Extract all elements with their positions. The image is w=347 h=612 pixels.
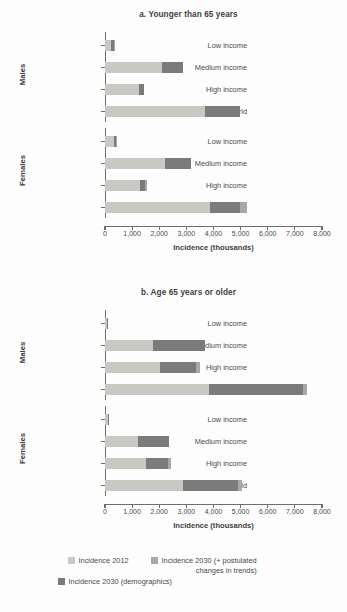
bar-segment [146,458,168,469]
x-axis-label: Incidence (thousands) [105,521,322,530]
x-tick-label: 1,000 [123,508,141,515]
category-label: Medium income [195,160,247,167]
bar-segment [105,62,162,73]
category-label: Low income [208,320,247,327]
bar-segment [238,480,242,491]
legend-label-line2: changes in trends) [162,566,257,576]
legend-swatch-incidence-2030-demographics [58,578,65,585]
x-tick-label: 4,000 [205,508,223,515]
x-tick-label: 4,000 [205,230,223,237]
category-label: Medium income [195,64,247,71]
category-label: High income [206,460,247,467]
panel-a-plot: MalesLow incomeMedium incomeHigh incomeW… [0,26,347,256]
x-tick-label: 5,000 [232,230,250,237]
bar-segment [138,436,169,447]
x-tick-label: 8,000 [313,508,331,515]
bar-segment [105,340,153,351]
legend-swatch-incidence-2030-trends [151,557,158,564]
x-tick-label: 0 [103,230,107,237]
x-tick-label: 1,000 [123,230,141,237]
x-tick-label: 0 [103,508,107,515]
x-tick-label: 6,000 [259,230,277,237]
bar-segment [205,106,240,117]
x-tick-label: 7,000 [286,508,304,515]
x-tick-label: 3,000 [178,230,196,237]
category-label: High income [206,86,247,93]
x-tick-label: 6,000 [259,508,277,515]
legend-row: Incidence 2030 (+ postulatedchanges in t… [151,556,257,575]
legend-label: Incidence 2030 (demographics) [69,577,173,587]
bar-segment [105,84,139,95]
legend-row: Incidence 2030 (demographics) [58,577,172,587]
bar-segment [196,362,200,373]
bar-segment [210,202,241,213]
bar-segment [165,158,191,169]
panel-b-title: b. Age 65 years or older [0,288,347,297]
bar-segment [107,318,108,329]
category-label: Low income [208,416,247,423]
bar-segment [303,384,307,395]
bar-segment [162,62,183,73]
bar-segment [153,340,205,351]
x-axis-label: Incidence (thousands) [105,243,322,252]
legend-swatch-incidence-2012 [68,557,75,564]
bar-segment [105,136,114,147]
legend-label: Incidence 2030 (+ postulated [162,556,257,565]
bar-segment [105,384,209,395]
panel-age-65-or-older: b. Age 65 years or older MalesLow income… [0,278,347,550]
x-tick-label: 2,000 [150,230,168,237]
group-label-males: Males [18,45,27,105]
bar-segment [105,180,140,191]
bar-segment [105,436,138,447]
panel-younger-than-65: a. Younger than 65 years MalesLow income… [0,0,347,272]
x-tick-label: 3,000 [178,508,196,515]
bar-segment [114,40,115,51]
category-label: Low income [208,138,247,145]
bar-segment [105,480,183,491]
panel-b-plot: MalesLow incomeMedium incomeHigh incomeW… [0,304,347,534]
group-label-females: Females [18,141,27,201]
legend-label: Incidence 2012 [79,556,129,566]
bar-segment [145,180,147,191]
bar-segment [183,480,238,491]
x-tick-label: 2,000 [150,508,168,515]
x-tick-label: 7,000 [286,230,304,237]
bar-segment [105,458,146,469]
category-label: High income [206,364,247,371]
category-label: Low income [208,42,247,49]
bar-segment [139,84,144,95]
bar-segment [108,414,109,425]
bar-segment [160,362,196,373]
x-tick-label: 8,000 [313,230,331,237]
bar-segment [105,158,165,169]
bar-segment [105,202,210,213]
category-label: High income [206,182,247,189]
panel-a-title: a. Younger than 65 years [0,10,347,19]
legend-row: Incidence 2012 [68,556,129,566]
group-label-males: Males [18,323,27,383]
bar-segment [116,136,117,147]
bar-segment [168,458,171,469]
bar-segment [209,384,303,395]
category-label: Medium income [195,438,247,445]
chart-page: a. Younger than 65 years MalesLow income… [0,0,347,612]
bar-segment [240,202,246,213]
x-tick-label: 5,000 [232,508,250,515]
bar-segment [105,106,205,117]
bar-segment [105,362,160,373]
group-label-females: Females [18,419,27,479]
